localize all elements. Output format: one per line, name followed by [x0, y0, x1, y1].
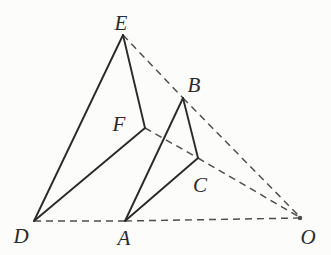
point-label-C: C: [193, 173, 208, 197]
geometry-figure: EBFCDAO: [0, 0, 331, 255]
point-label-A: A: [116, 226, 131, 250]
point-label-D: D: [12, 224, 28, 248]
convergence-point: [298, 216, 302, 220]
diagram-svg: EBFCDAO: [0, 0, 331, 255]
dashed-edge-EB: [123, 35, 183, 98]
solid-edge-AB: [125, 98, 183, 221]
solid-edge-CA: [125, 158, 198, 221]
solid-edge-EF: [123, 35, 145, 128]
dashed-edge-AO: [125, 218, 301, 221]
dashed-edge-BO: [183, 98, 301, 218]
dashed-edge-FC: [145, 128, 198, 158]
point-label-O: O: [300, 225, 315, 249]
dashed-perspective-lines: [34, 35, 301, 221]
point-label-E: E: [114, 11, 128, 35]
point-labels: EBFCDAO: [12, 11, 315, 250]
point-label-B: B: [188, 73, 201, 97]
point-O-dot: [298, 216, 302, 220]
point-label-F: F: [112, 112, 126, 136]
dashed-edge-CO: [198, 158, 301, 218]
solid-edge-DE: [34, 35, 123, 221]
solid-edge-FD: [34, 128, 145, 221]
solid-edge-BC: [183, 98, 198, 158]
